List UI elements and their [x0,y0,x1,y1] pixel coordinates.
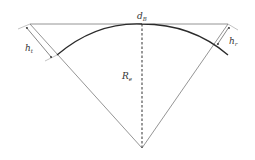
left-extension-bottom [45,55,57,61]
right-height-dimension-line [217,27,229,45]
label-r-e: Re [121,71,133,82]
right-extension-top [228,24,238,30]
left-radius-line [30,24,142,148]
left-dim-arrow-bottom [50,56,52,58]
left-dim-arrow-top [26,27,28,29]
label-d-b: dB [137,11,147,22]
left-extension-top [18,24,30,29]
right-dim-arrow-top [228,27,230,29]
right-dim-arrow-bottom [217,43,219,45]
earth-curvature-diagram: dB Re ht hr [0,0,255,160]
right-radius-line [142,24,228,148]
label-h-t: ht [25,43,34,54]
label-h-r: hr [229,36,238,47]
